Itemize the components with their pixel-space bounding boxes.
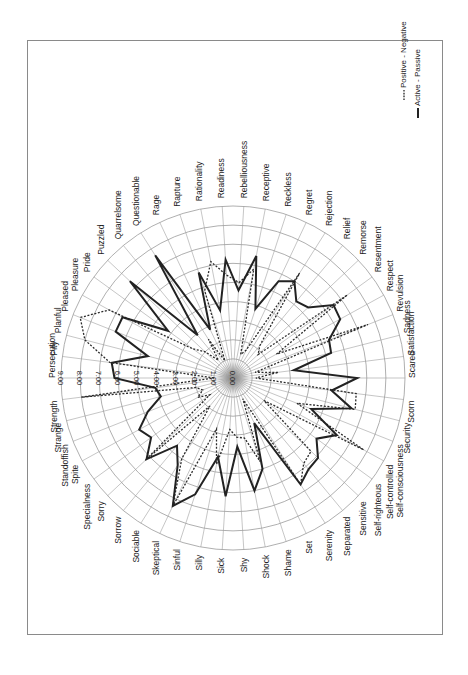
category-label: Strength	[49, 400, 59, 432]
category-label: Self-consciousness	[395, 444, 405, 517]
category-label: Spite	[70, 464, 80, 484]
category-label: Rebelliousness	[239, 141, 249, 199]
category-label: Sensitive	[358, 501, 368, 536]
category-label: Silly	[194, 554, 204, 570]
category-label: Shock	[261, 554, 271, 578]
category-label: Pride	[82, 252, 92, 272]
legend-label-positive-negative: Positive - Negative	[399, 21, 408, 88]
category-label: Satisfaction	[406, 311, 416, 355]
category-label: Sinful	[172, 549, 182, 570]
category-label: Sorrow	[113, 516, 123, 544]
legend: Positive - NegativeActive - Passive	[399, 21, 422, 118]
radial-tick-label: 7.00	[94, 371, 103, 386]
category-label: Resentment	[373, 226, 383, 272]
category-label: Rationality	[194, 161, 204, 201]
radar-chart: 0.001.002.003.004.005.006.007.008.009.00…	[0, 0, 468, 675]
category-label: Questionable	[131, 176, 141, 226]
category-label: Self-controlled	[385, 464, 395, 519]
category-label: Receptive	[261, 163, 271, 201]
radial-tick-label: 2.00	[190, 371, 199, 386]
category-label: Puzzled	[96, 224, 106, 255]
radial-tick-label: 8.00	[75, 371, 84, 386]
category-label: Pity	[49, 341, 59, 356]
category-label: Serenity	[324, 529, 334, 561]
category-label: Quarrelsome	[113, 190, 123, 239]
category-label: Scared	[407, 351, 417, 378]
category-label: Regret	[304, 189, 314, 215]
category-label: Shy	[239, 557, 249, 572]
radial-tick-label: 9.00	[56, 371, 65, 386]
category-label: Sorry	[96, 500, 106, 521]
category-label: Sick	[216, 557, 226, 574]
category-label: Reckless	[283, 172, 293, 206]
radial-tick-label: 0.00	[228, 371, 237, 386]
category-label: Sociable	[131, 530, 141, 563]
legend-label-active-passive: Active - Passive	[413, 49, 422, 106]
category-label: Skeptical	[151, 541, 161, 576]
category-label: Scorn	[406, 400, 416, 422]
category-label: Pleased	[60, 281, 70, 312]
category-label: Readiness	[216, 158, 226, 198]
category-label: Pleasure	[70, 257, 80, 291]
radial-tick-label: 4.00	[152, 371, 161, 386]
category-label: Rage	[151, 195, 161, 216]
category-label: Rapture	[172, 176, 182, 207]
category-label: Self-righteous	[373, 484, 383, 536]
category-label: Rejection	[324, 190, 334, 226]
category-label: Set	[304, 540, 314, 553]
category-label: Remorse	[358, 220, 368, 255]
category-label: Separated	[342, 516, 352, 555]
category-label: Specialness	[82, 484, 92, 530]
category-label: Respect	[385, 259, 395, 291]
category-label: Shame	[283, 549, 293, 576]
category-label: Relief	[342, 217, 352, 239]
